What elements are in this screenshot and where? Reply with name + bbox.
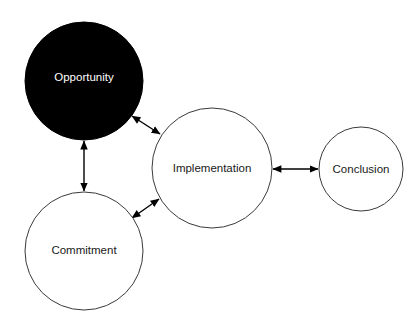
- node-conclusion[interactable]: Conclusion: [319, 127, 403, 211]
- node-implementation[interactable]: Implementation: [152, 108, 272, 228]
- edge-opportunity-implementation: [132, 116, 160, 134]
- node-label-opportunity: Opportunity: [54, 71, 114, 83]
- node-label-commitment: Commitment: [51, 244, 117, 256]
- diagram-canvas: Commitment Implementation Conclusion Opp…: [0, 0, 420, 330]
- diagram-svg: Commitment Implementation Conclusion Opp…: [0, 0, 420, 330]
- node-opportunity[interactable]: Opportunity: [25, 22, 143, 140]
- node-label-conclusion: Conclusion: [333, 163, 390, 175]
- edge-commitment-implementation: [132, 199, 159, 218]
- node-label-implementation: Implementation: [173, 162, 252, 174]
- node-commitment[interactable]: Commitment: [25, 192, 143, 310]
